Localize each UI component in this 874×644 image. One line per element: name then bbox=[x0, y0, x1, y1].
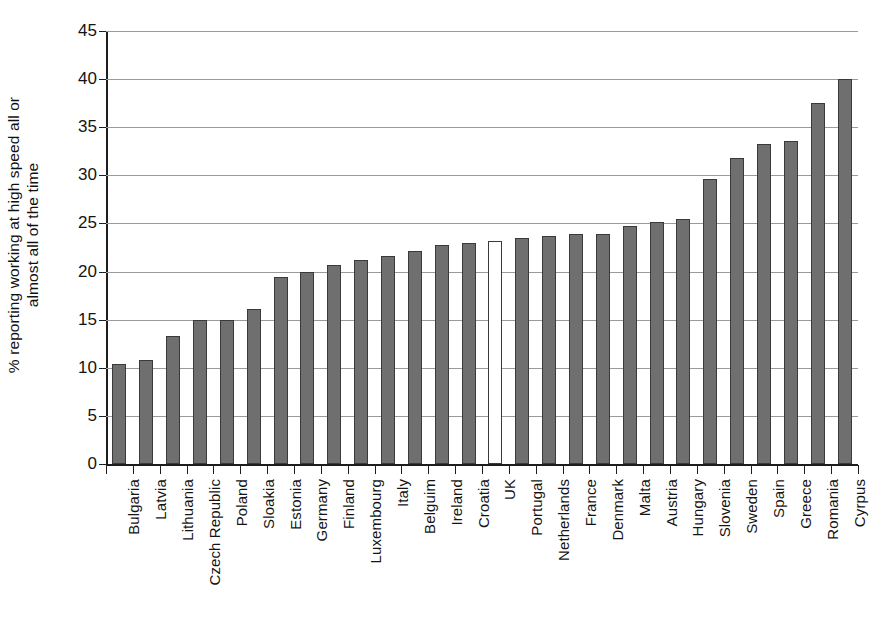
bar-hungary bbox=[676, 219, 690, 464]
x-tick-mark bbox=[213, 465, 214, 474]
x-tick-mark bbox=[563, 465, 564, 474]
y-tick-mark bbox=[99, 368, 106, 369]
y-tick-mark bbox=[99, 79, 106, 80]
y-tick-label: 15 bbox=[0, 310, 106, 330]
x-tick-mark bbox=[321, 465, 322, 474]
bar-spain bbox=[757, 144, 771, 464]
x-label-czech-republic: Czech Republic bbox=[206, 479, 223, 585]
y-axis-title-line1: % reporting working at high speed all or bbox=[5, 97, 22, 373]
y-tick-label: 25 bbox=[0, 213, 106, 233]
plot-area bbox=[106, 31, 858, 464]
x-label-germany: Germany bbox=[313, 479, 330, 541]
x-tick-mark bbox=[482, 465, 483, 474]
x-label-greece: Greece bbox=[797, 479, 814, 529]
x-tick-mark bbox=[589, 465, 590, 474]
y-tick-label: 0 bbox=[0, 454, 106, 474]
x-label-italy: Italy bbox=[394, 479, 411, 507]
x-label-croatia: Croatia bbox=[475, 479, 492, 528]
x-label-estonia: Estonia bbox=[287, 479, 304, 530]
y-tick-mark bbox=[99, 223, 106, 224]
bar-greece bbox=[784, 141, 798, 464]
bar-netherlands bbox=[542, 236, 556, 464]
x-label-poland: Poland bbox=[233, 479, 250, 526]
x-label-finland: Finland bbox=[340, 479, 357, 529]
y-tick-mark bbox=[99, 272, 106, 273]
x-label-france: France bbox=[582, 479, 599, 526]
x-tick-mark bbox=[858, 465, 859, 474]
bar-austria bbox=[650, 222, 664, 464]
bar-poland bbox=[220, 320, 234, 464]
y-tick-mark bbox=[99, 175, 106, 176]
x-tick-mark bbox=[804, 465, 805, 474]
x-label-malta: Malta bbox=[636, 479, 653, 516]
x-tick-mark bbox=[106, 465, 107, 474]
x-label-cyrpus: Cyrpus bbox=[851, 479, 868, 527]
x-tick-mark bbox=[697, 465, 698, 474]
bar-germany bbox=[300, 272, 314, 464]
x-label-denmark: Denmark bbox=[609, 479, 626, 541]
bar-malta bbox=[623, 226, 637, 464]
y-tick-label: 30 bbox=[0, 165, 106, 185]
bar-sloakia bbox=[247, 309, 261, 464]
x-tick-mark bbox=[187, 465, 188, 474]
x-label-bulgaria: Bulgaria bbox=[125, 479, 142, 535]
bar-cyrpus bbox=[838, 79, 852, 464]
x-label-belguim: Belguim bbox=[421, 479, 438, 534]
bar-italy bbox=[381, 256, 395, 464]
y-tick-label: 10 bbox=[0, 358, 106, 378]
x-tick-mark bbox=[428, 465, 429, 474]
y-tick-mark bbox=[99, 416, 106, 417]
x-label-sweden: Sweden bbox=[743, 479, 760, 534]
x-tick-mark bbox=[751, 465, 752, 474]
x-tick-mark bbox=[401, 465, 402, 474]
x-label-latvia: Latvia bbox=[152, 479, 169, 520]
x-label-lithuania: Lithuania bbox=[179, 479, 196, 541]
x-label-uk: UK bbox=[501, 479, 518, 500]
bar-chart-figure: % reporting working at high speed all or… bbox=[0, 0, 874, 644]
x-label-sloakia: Sloakia bbox=[260, 479, 277, 529]
x-label-austria: Austria bbox=[663, 479, 680, 526]
y-tick-label: 35 bbox=[0, 117, 106, 137]
bar-lithuania bbox=[166, 336, 180, 464]
x-tick-mark bbox=[348, 465, 349, 474]
bar-czech-republic bbox=[193, 320, 207, 464]
x-tick-mark bbox=[160, 465, 161, 474]
bar-latvia bbox=[139, 360, 153, 464]
x-tick-mark bbox=[670, 465, 671, 474]
bar-uk bbox=[488, 241, 502, 464]
bar-portugal bbox=[515, 238, 529, 464]
x-label-hungary: Hungary bbox=[689, 479, 706, 536]
x-label-slovenia: Slovenia bbox=[716, 479, 733, 537]
x-tick-mark bbox=[831, 465, 832, 474]
x-tick-mark bbox=[643, 465, 644, 474]
x-tick-mark bbox=[509, 465, 510, 474]
y-axis-title-line2: almost all of the time bbox=[23, 97, 42, 373]
bar-croatia bbox=[462, 243, 476, 464]
bar-slovenia bbox=[703, 179, 717, 464]
bars-layer bbox=[106, 31, 858, 464]
x-tick-mark bbox=[375, 465, 376, 474]
x-tick-mark bbox=[267, 465, 268, 474]
bar-estonia bbox=[274, 277, 288, 464]
bar-belguim bbox=[408, 251, 422, 464]
x-tick-mark bbox=[777, 465, 778, 474]
x-tick-mark bbox=[294, 465, 295, 474]
x-tick-mark bbox=[724, 465, 725, 474]
y-tick-label: 20 bbox=[0, 262, 106, 282]
bar-denmark bbox=[596, 234, 610, 464]
x-tick-mark bbox=[240, 465, 241, 474]
bar-bulgaria bbox=[112, 364, 126, 464]
x-tick-mark bbox=[133, 465, 134, 474]
y-tick-label: 45 bbox=[0, 21, 106, 41]
y-tick-label: 5 bbox=[0, 406, 106, 426]
x-tick-mark bbox=[536, 465, 537, 474]
x-label-ireland: Ireland bbox=[448, 479, 465, 526]
y-tick-label: 40 bbox=[0, 69, 106, 89]
bar-ireland bbox=[435, 245, 449, 464]
x-tick-mark bbox=[455, 465, 456, 474]
x-label-netherlands: Netherlands bbox=[555, 479, 572, 561]
y-tick-mark bbox=[99, 320, 106, 321]
x-tick-mark bbox=[616, 465, 617, 474]
y-tick-mark bbox=[99, 127, 106, 128]
y-tick-mark bbox=[99, 464, 106, 465]
